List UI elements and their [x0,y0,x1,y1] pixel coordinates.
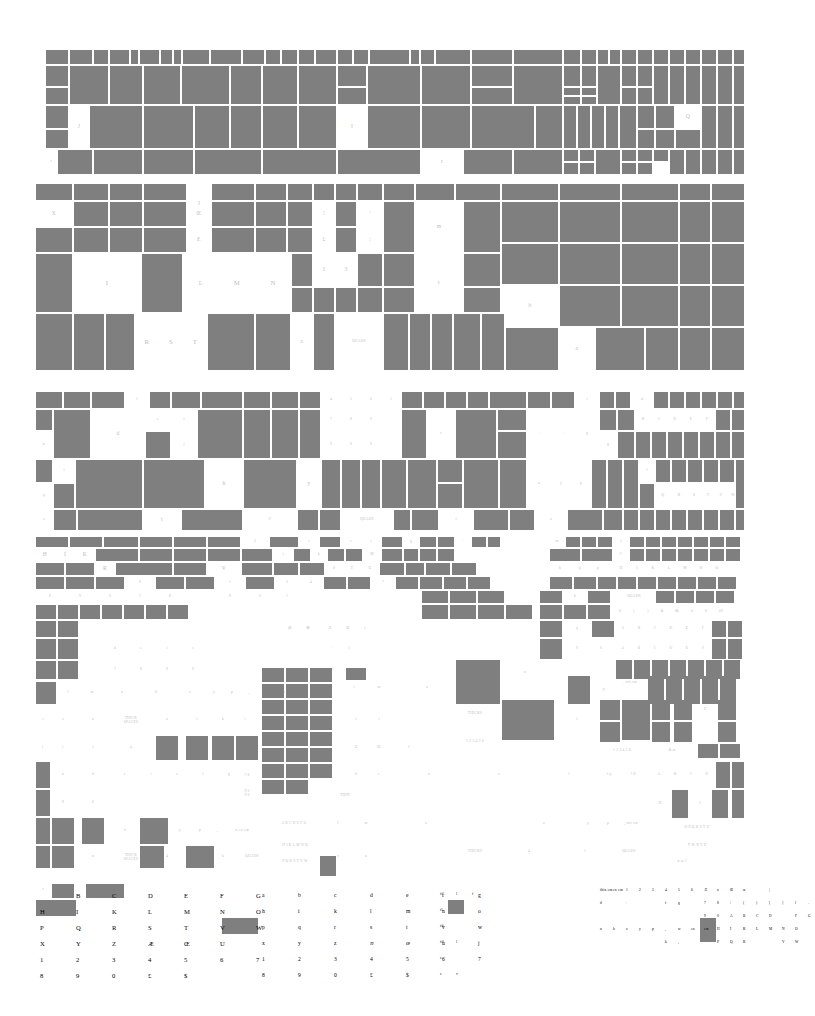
compartment-label: s [36,884,50,896]
alphabet-table-cell: Q [76,924,112,940]
alphabet-table-cell: O [795,927,808,940]
alphabet-table-cell: Æ [704,888,717,901]
alphabet-table-cell: V [782,940,795,953]
alphabet-table-cell: . [808,901,815,914]
alphabet-table-cell: s [440,956,456,972]
alphabet-table-cell: 0 [334,972,370,988]
alphabet-table-cell: h [262,908,298,924]
type-compartment-empty: s [36,884,50,896]
alphabet-table-cell: M [184,908,220,924]
alphabet-table-cell: g [678,901,691,914]
alphabet-table-cell: w [678,927,691,940]
alphabet-table-cell: 8 [262,972,298,988]
alphabet-table-cell: 6 [220,956,256,972]
alphabet-table-cell: q [298,924,334,940]
alphabet-table-cell: l [456,892,472,908]
alphabet-table-cell: t [406,924,442,940]
alphabet-table-cell: s [370,924,406,940]
alphabet-table-cell: p [652,927,665,940]
alphabet-table-cell: l [795,901,808,914]
alphabet-table-cell: B [743,914,756,927]
alphabet-table-cell: f [665,901,678,914]
alphabet-table-cell: em [704,927,717,940]
alphabet-table-cell: £ [148,972,184,988]
alphabet-table-cell: fi [440,892,456,908]
alphabet-table-cell: Œ [730,888,743,901]
type-compartment-filled [52,884,74,898]
alphabet-table-cell: N [782,927,795,940]
alphabet-table-cell: Y [76,940,112,956]
alphabet-table-cell: œ [406,940,442,956]
alphabet-table-cell: $ [406,972,442,988]
alphabet-table-cell: a [717,888,730,901]
alphabet-table-cell: 0 [717,914,730,927]
alphabet-table-cell: 2 [298,956,334,972]
alphabet-table-cell: A [730,914,743,927]
alphabet-table-cell: H [40,908,76,924]
alphabet-table-cell: y [639,927,652,940]
alphabet-table-cell: k [665,940,678,953]
alphabet-table-cell: 4 [665,888,678,901]
alphabet-table-cell: 2 [76,956,112,972]
alphabet-table-cell: · [626,901,639,914]
alphabet-table-cell: M [769,927,782,940]
alphabet-table-cell: s [440,972,456,988]
alphabet-table-cell: D [148,892,184,908]
alphabet-table-cell: F [220,892,256,908]
alphabet-table-cell: x [262,940,298,956]
alphabet-table-cell: 3 [112,956,148,972]
alphabet-table-cell: 9 [704,914,717,927]
alphabet-table-cell: V [220,924,256,940]
alphabet-table-cell: r [334,924,370,940]
alphabet-table-cell: h [613,927,626,940]
alphabet-table-cell: en em [613,888,626,901]
alphabet-table-cell: L [148,908,184,924]
alphabet-table-cell: thin em [600,888,613,901]
alphabet-table-cell: b [298,892,334,908]
alphabet-table-cell: B [76,892,112,908]
alphabet-table-cell: ) [756,901,769,914]
alphabet-table-cell: G [808,914,815,927]
alphabet-table-cell: X [40,940,76,956]
alphabet-table-cell: 4 [370,956,406,972]
alphabet-table-cell: I [730,927,743,940]
alphabet-table-cell: 9 [76,972,112,988]
alphabet-table-cell: 7 [704,901,717,914]
alphabet-table-cell: £ [370,972,406,988]
alphabet-table-cell: d [370,892,406,908]
alphabet-table-cell: Œ [184,940,220,956]
alphabet-table-cell: m [406,908,442,924]
alphabet-table-cell: k [334,908,370,924]
alphabet-table-cell: w [478,924,514,940]
alphabet-table-cell: K [743,927,756,940]
alphabet-table-cell: o [626,927,639,940]
alphabet-table-cell: , [665,927,678,940]
alphabet-table-cell: F [795,914,808,927]
alphabet-table-cell: z [334,940,370,956]
alphabet-table-cell: 5 [184,956,220,972]
alphabet-table-cell: S [148,924,184,940]
alphabet-table-cell: c [334,892,370,908]
alphabet-table-cell: P [40,924,76,940]
alphabet-table-cell: n [600,927,613,940]
alphabet-table-cell: d [600,901,613,914]
alphabet-table-cell: 1 [40,956,76,972]
alphabet-table-cell: ] [782,901,795,914]
alphabet-table-cell: 5 [678,888,691,901]
alphabet-table-cell: U [220,940,256,956]
alphabet-table-cell: 0 [112,972,148,988]
alphabet-table-cell: 1 [262,956,298,972]
alphabet-table-cell: a [262,892,298,908]
alphabet-table-cell: i [298,908,334,924]
alphabet-table-cell: 7 [478,956,514,972]
alphabet-table-cell: C [112,892,148,908]
alphabet-table-cell: o [478,908,514,924]
alphabet-table-cell: l [456,940,472,956]
alphabet-table-cell: 9 [298,972,334,988]
alphabet-table-cell: j [478,940,514,956]
alphabet-table-cell: 1 [626,888,639,901]
alphabet-table-cell: 2 [639,888,652,901]
alphabet-table-cell: Q [730,940,743,953]
alphabet-table-cell: / [730,901,743,914]
